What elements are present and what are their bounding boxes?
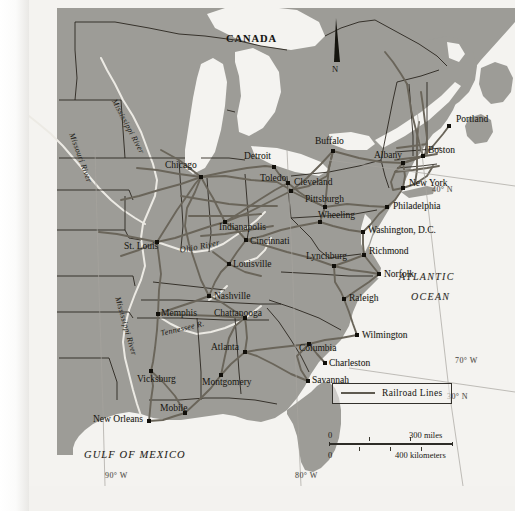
legend-railroad-swatch	[341, 392, 375, 394]
city-label: Cleveland	[294, 178, 333, 188]
city-marker	[342, 297, 345, 300]
city-label: New Orleans	[93, 415, 143, 425]
scale-miles-zero: 0	[328, 430, 332, 440]
scale-tick-miles-1	[369, 437, 370, 441]
city-label: Chattanooga	[214, 309, 262, 319]
north-arrow-label: N	[332, 64, 338, 74]
city-marker	[156, 312, 159, 315]
label-atlantic-ocean-line2: OCEAN	[411, 292, 450, 302]
map-figure: CANADA ATLANTIC OCEAN GULF OF MEXICO N M…	[0, 0, 515, 511]
city-label: Wilmington	[362, 331, 408, 341]
city-label: Wheeling	[318, 211, 355, 221]
map-plate: CANADA ATLANTIC OCEAN GULF OF MEXICO N M…	[29, 0, 515, 486]
city-label: Boston	[428, 146, 455, 156]
city-label: Memphis	[161, 309, 197, 319]
city-label: Portland	[456, 115, 488, 125]
legend-railroad-label: Railroad Lines	[382, 388, 442, 398]
city-marker	[243, 350, 246, 353]
graticule-label: 40° N	[432, 186, 453, 194]
city-label: Charleston	[329, 359, 370, 369]
graticule-label: 90° W	[105, 472, 128, 480]
city-label: Atlanta	[211, 343, 239, 353]
city-label: Pittsburgh	[305, 195, 344, 205]
city-label: Cincinnati	[250, 237, 290, 247]
city-label: Washington, D.C.	[368, 226, 436, 236]
city-label: Detroit	[244, 152, 271, 162]
city-marker	[199, 175, 202, 178]
city-marker	[385, 205, 388, 208]
city-marker	[421, 154, 424, 157]
city-marker	[244, 238, 247, 241]
scale-km-max: 400 kilometers	[395, 450, 446, 460]
scale-bar-line	[329, 442, 453, 446]
city-label: Lynchburg	[306, 252, 347, 262]
city-marker	[377, 272, 380, 275]
scale-tick-km-1	[359, 447, 360, 451]
city-marker	[289, 189, 292, 192]
city-marker	[332, 264, 335, 267]
city-marker	[331, 149, 334, 152]
city-label: Vicksburg	[137, 375, 176, 385]
city-label: Richmond	[369, 247, 409, 257]
city-marker	[149, 369, 152, 372]
city-marker	[323, 205, 326, 208]
city-marker	[227, 262, 230, 265]
city-marker	[207, 294, 210, 297]
label-canada: CANADA	[226, 34, 277, 45]
city-label: Philadelphia	[393, 202, 441, 212]
city-label: Chicago	[165, 161, 197, 171]
city-marker	[362, 253, 365, 256]
graticule-label: 70° W	[455, 357, 478, 365]
scale-km-zero: 0	[328, 450, 332, 460]
city-label: Albany	[374, 151, 402, 161]
city-label: St. Louis	[124, 242, 158, 252]
city-marker	[361, 230, 364, 233]
city-marker	[401, 186, 404, 189]
city-marker	[318, 220, 321, 223]
scale-tick-km-2	[390, 447, 391, 451]
city-label: Toledo	[260, 174, 286, 184]
city-label: Indianapolis	[219, 223, 266, 233]
label-gulf-of-mexico: GULF OF MEXICO	[84, 450, 186, 461]
city-label: Raleigh	[349, 294, 379, 304]
scale-miles-max: 300 miles	[409, 430, 442, 440]
city-marker	[355, 333, 358, 336]
city-marker	[286, 181, 289, 184]
graticule-label: 80° W	[295, 472, 318, 480]
city-label: Louisville	[233, 260, 272, 270]
city-label: Montgomery	[202, 378, 252, 388]
city-marker	[306, 379, 309, 382]
city-label: Columbia	[299, 344, 336, 354]
city-marker	[147, 419, 150, 422]
city-marker	[272, 165, 275, 168]
city-marker	[447, 124, 450, 127]
city-label: Mobile	[160, 404, 187, 414]
city-label: Nashville	[214, 292, 250, 302]
legend-box: Railroad Lines	[332, 383, 452, 404]
city-marker	[401, 161, 404, 164]
city-marker	[323, 361, 326, 364]
city-label: Norfolk	[384, 270, 414, 280]
city-label: Buffalo	[315, 137, 344, 147]
page-margin-left	[0, 0, 29, 511]
